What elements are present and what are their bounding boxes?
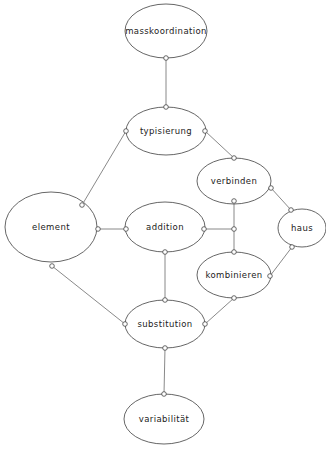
connector-port bbox=[232, 250, 237, 255]
verbinden-label: verbinden bbox=[211, 176, 258, 186]
connector-port bbox=[202, 227, 207, 232]
connector-port bbox=[232, 156, 237, 161]
edge-verbinden-haus bbox=[271, 188, 291, 210]
substitution-label: substitution bbox=[137, 319, 192, 329]
edge-typisierung-verbinden bbox=[205, 131, 234, 158]
connector-port bbox=[80, 203, 85, 208]
connector-port bbox=[289, 208, 294, 213]
node-substitution: substitution bbox=[125, 300, 205, 348]
connector-port bbox=[203, 129, 208, 134]
connector-port bbox=[162, 392, 167, 397]
node-addition: addition bbox=[125, 202, 205, 252]
connector-port bbox=[124, 227, 129, 232]
node-haus: haus bbox=[278, 209, 326, 247]
connector-port bbox=[232, 296, 237, 301]
typisierung-label: typisierung bbox=[140, 126, 192, 136]
connector-port bbox=[123, 322, 128, 327]
variabilitaet-label: variabilität bbox=[139, 414, 190, 424]
connector-port bbox=[124, 129, 129, 134]
connector-port bbox=[203, 322, 208, 327]
nodes-layer: masskoordinationtypisierungverbindenhaus… bbox=[5, 4, 326, 444]
edge-haus-kombinieren bbox=[270, 247, 292, 276]
node-verbinden: verbinden bbox=[197, 158, 271, 204]
edge-typisierung-element bbox=[82, 131, 126, 205]
haus-label: haus bbox=[291, 223, 313, 233]
connector-port bbox=[50, 264, 55, 269]
edge-substitution-variabilitaet bbox=[164, 348, 165, 394]
node-typisierung: typisierung bbox=[126, 107, 206, 155]
node-variabilitaet: variabilität bbox=[124, 394, 204, 444]
connector-port bbox=[164, 56, 169, 61]
node-masskoordination: masskoordination bbox=[125, 4, 207, 58]
connector-port bbox=[163, 298, 168, 303]
addition-label: addition bbox=[146, 222, 184, 232]
element-label: element bbox=[32, 222, 70, 232]
kombinieren-label: kombinieren bbox=[205, 270, 262, 280]
connector-port bbox=[268, 274, 273, 279]
connector-port bbox=[290, 245, 295, 250]
connector-port bbox=[163, 250, 168, 255]
edge-kombinieren-substitution bbox=[205, 298, 234, 324]
node-element: element bbox=[5, 192, 97, 262]
connector-port bbox=[163, 346, 168, 351]
connector-port bbox=[269, 186, 274, 191]
masskoordination-label: masskoordination bbox=[125, 26, 207, 36]
connector-port bbox=[96, 227, 101, 232]
node-kombinieren: kombinieren bbox=[197, 252, 271, 298]
edge-element-substitution bbox=[52, 266, 125, 324]
connector-port bbox=[232, 227, 237, 232]
concept-diagram: masskoordinationtypisierungverbindenhaus… bbox=[0, 0, 326, 451]
connector-port bbox=[164, 105, 169, 110]
connector-port bbox=[232, 199, 237, 204]
